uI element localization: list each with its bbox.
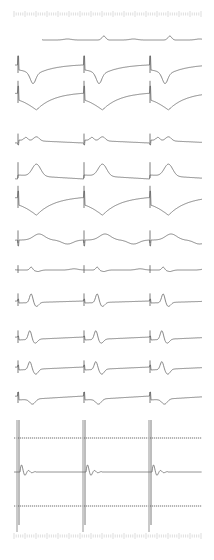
lead-trace-strip-11 <box>15 392 202 404</box>
ecg-tracing <box>0 0 214 560</box>
lead-trace-strip-10 <box>15 362 202 375</box>
lead-trace-strip-1 <box>15 56 202 84</box>
rhythm-trace <box>14 465 202 475</box>
rhythm-strip <box>14 420 202 532</box>
lead-trace-strip-0 <box>42 36 202 40</box>
lead-trace-strip-7 <box>15 267 202 271</box>
lead-trace-strip-5 <box>15 191 202 215</box>
lead-trace-strip-9 <box>15 331 202 343</box>
lead-trace-strip-8 <box>15 294 202 307</box>
lead-traces <box>15 36 202 404</box>
lead-trace-strip-2 <box>15 86 202 110</box>
lead-trace-strip-4 <box>15 164 202 179</box>
lead-trace-strip-6 <box>15 234 202 246</box>
lead-trace-strip-3 <box>15 137 202 145</box>
timing-ruler-top <box>14 11 201 17</box>
timing-ruler-bottom <box>14 533 201 539</box>
